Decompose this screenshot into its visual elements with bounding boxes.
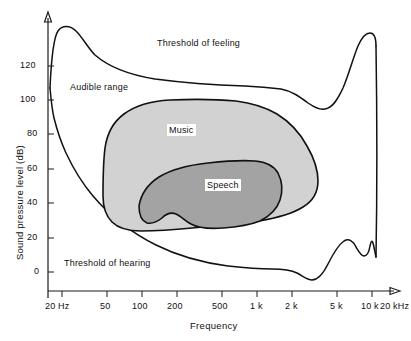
y-tick-label-60: 60 — [27, 163, 37, 173]
y-tick-label-20: 20 — [27, 232, 37, 242]
audible-range-right-closure — [376, 46, 377, 257]
threshold-of-feeling-label: Threshold of feeling — [157, 38, 240, 48]
y-tick-label-0: 0 — [34, 266, 39, 276]
y-tick-label-80: 80 — [27, 128, 37, 138]
chart-plot-area — [0, 0, 411, 341]
speech-region-label: Speech — [205, 179, 241, 191]
x-tick-label-20khz: 20 kHz — [380, 301, 409, 311]
x-tick-label-200: 200 — [167, 301, 183, 311]
audible-range-label: Audible range — [70, 82, 128, 92]
x-tick-label-20hz: 20 Hz — [45, 301, 70, 311]
music-region-label: Music — [167, 124, 196, 136]
y-tick-label-40: 40 — [27, 197, 37, 207]
x-tick-label-500: 500 — [212, 301, 228, 311]
y-axis-title: Sound pressure level (dB) — [14, 145, 25, 260]
x-tick-label-10k: 10 k — [361, 301, 379, 311]
x-tick-label-100: 100 — [132, 301, 148, 311]
x-tick-label-1k: 1 k — [250, 301, 263, 311]
x-axis-ticks — [62, 291, 372, 297]
y-tick-label-120: 120 — [20, 60, 36, 70]
x-axis-title: Frequency — [190, 320, 238, 331]
x-tick-label-5k: 5 k — [330, 301, 343, 311]
x-tick-label-2k: 2 k — [285, 301, 298, 311]
auditory-field-chart: Sound pressure level (dB) 120 100 80 60 … — [0, 0, 411, 341]
y-tick-label-100: 100 — [20, 94, 36, 104]
x-tick-label-50: 50 — [100, 301, 110, 311]
threshold-of-hearing-label: Threshold of hearing — [64, 258, 151, 268]
